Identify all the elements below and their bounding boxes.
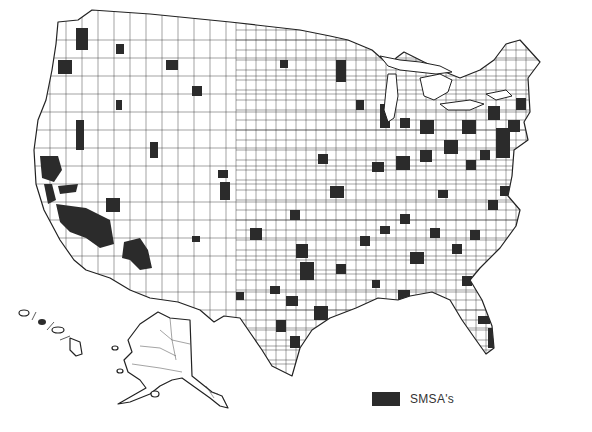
us-county-map bbox=[0, 0, 592, 432]
alaska bbox=[112, 312, 228, 408]
map-legend: SMSA's bbox=[372, 392, 454, 406]
contiguous-us bbox=[30, 0, 560, 400]
legend-swatch-smsa bbox=[372, 392, 400, 406]
legend-label-smsa: SMSA's bbox=[410, 392, 454, 406]
hawaii bbox=[19, 310, 82, 356]
